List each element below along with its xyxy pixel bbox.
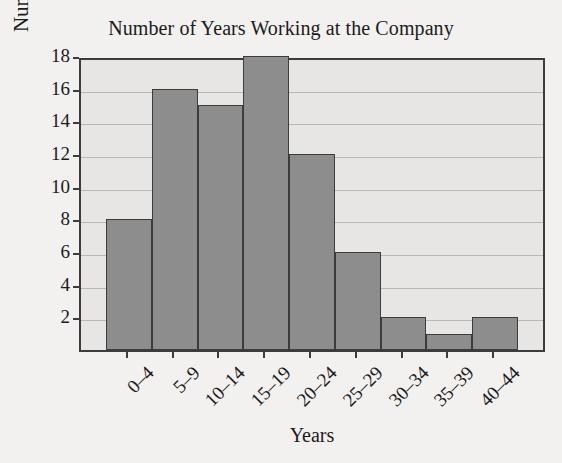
bar [106,219,152,350]
y-tick-mark [73,286,79,288]
bar [381,317,427,350]
y-tick-label: 8 [38,208,70,230]
x-tick-mark [446,352,448,358]
x-tick-mark [401,352,403,358]
y-tick-label: 10 [38,176,70,198]
y-tick-label: 14 [38,110,70,132]
y-axis-title: Number of Employees [9,0,35,84]
y-tick-label: 18 [38,45,70,67]
gridline [81,124,543,125]
x-tick-mark [492,352,494,358]
x-tick-label: 20–24 [284,362,342,420]
y-tick-mark [73,220,79,222]
y-axis-title-text: Number of Employees [9,0,34,84]
y-tick-label: 4 [38,274,70,296]
bar [152,89,198,350]
x-tick-label: 40–44 [467,362,525,420]
y-tick-label: 2 [38,306,70,328]
y-tick-label: 6 [38,241,70,263]
x-tick-mark [355,352,357,358]
y-tick-mark [73,57,79,59]
y-tick-mark [73,253,79,255]
bar [243,56,289,350]
bar [426,334,472,350]
x-tick-label: 30–34 [375,362,433,420]
x-tick-label: 15–19 [238,362,296,420]
chart-title: Number of Years Working at the Company [0,17,562,40]
x-tick-mark [126,352,128,358]
x-tick-label: 10–14 [192,362,250,420]
plot-inner [81,60,543,350]
x-tick-label: 35–39 [421,362,479,420]
gridline [81,92,543,93]
x-tick-mark [172,352,174,358]
y-tick-mark [73,318,79,320]
histogram-figure: Number of Years Working at the Company N… [0,0,562,463]
y-tick-mark [73,90,79,92]
y-tick-label: 12 [38,143,70,165]
bar [335,252,381,350]
x-tick-label: 5–9 [146,362,204,420]
x-tick-mark [309,352,311,358]
x-axis-title: Years [79,424,545,447]
y-tick-mark [73,155,79,157]
y-tick-label: 16 [38,78,70,100]
y-tick-mark [73,188,79,190]
plot-area [79,58,545,352]
x-tick-mark [217,352,219,358]
x-tick-label: 0–4 [100,362,158,420]
bar [289,154,335,350]
x-tick-label: 25–29 [329,362,387,420]
bar [472,317,518,350]
bar [198,105,244,350]
y-tick-mark [73,122,79,124]
x-tick-mark [263,352,265,358]
